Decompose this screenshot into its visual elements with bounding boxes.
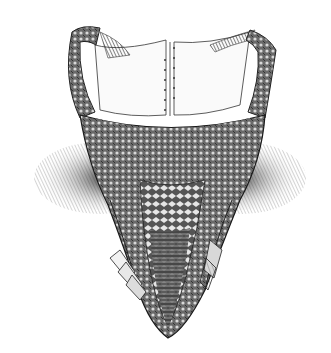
- corset-engraving: [0, 0, 331, 353]
- corset-bodice: [80, 115, 265, 338]
- illustration-canvas: [0, 0, 331, 353]
- corset-lining: [95, 30, 255, 116]
